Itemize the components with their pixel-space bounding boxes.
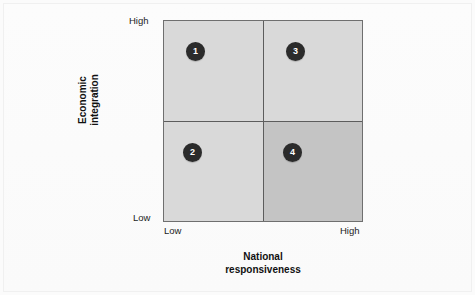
x-axis-tick-low: Low [164,225,181,236]
x-axis-title: National responsiveness [163,250,363,276]
y-axis-title-line-1: Economic [77,5,89,195]
marker-1: 1 [186,42,205,61]
quadrant-top-left [164,21,263,121]
marker-3: 3 [286,42,305,61]
quadrant-divider-horizontal [164,121,362,122]
quadrant-bottom-right-highlighted [264,122,362,221]
x-axis-title-line-2: responsiveness [163,263,363,276]
plot-area: 1 3 2 4 [163,20,363,222]
x-axis-title-line-1: National [163,250,363,263]
y-axis-title-line-2: integration [89,5,101,195]
quadrant-bottom-left [164,122,263,221]
matrix-figure: Economic integration High Low 1 3 2 4 Lo… [0,0,475,295]
y-axis-title: Economic integration [77,5,101,195]
quadrant-top-right [264,21,362,121]
marker-2: 2 [183,143,202,162]
x-axis-tick-high: High [340,225,360,236]
y-axis-tick-low: Low [133,212,150,223]
marker-4: 4 [283,143,302,162]
y-axis-tick-high: High [129,15,149,26]
